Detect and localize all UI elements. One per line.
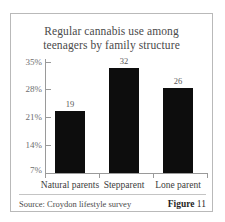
x-axis-label-lone-parent: Lone parent bbox=[144, 180, 212, 191]
bar-value-stepparent: 32 bbox=[109, 57, 139, 66]
bar-lone-parent bbox=[163, 88, 193, 173]
y-axis-tick bbox=[46, 145, 51, 146]
x-axis-tick bbox=[45, 174, 46, 178]
figure-caption: Figure 11 bbox=[168, 198, 206, 210]
y-axis-tick-label: 21% bbox=[12, 113, 42, 122]
y-axis-tick bbox=[46, 117, 51, 118]
y-axis-tick bbox=[46, 173, 51, 174]
source-note: Source: Croydon lifestyle survey bbox=[19, 198, 131, 210]
bar-natural-parents bbox=[55, 111, 85, 173]
bar-value-natural-parents: 19 bbox=[55, 100, 85, 109]
y-axis-tick-label: 14% bbox=[12, 141, 42, 150]
y-axis-tick-label: 28% bbox=[12, 85, 42, 94]
plot-area: 35% 28% 21% 14% 7% 19 Natural parents 32… bbox=[11, 14, 214, 213]
bar-stepparent bbox=[109, 68, 139, 173]
bar-value-lone-parent: 26 bbox=[163, 77, 193, 86]
figure-caption-number: 11 bbox=[197, 199, 206, 209]
y-axis-tick-label: 7% bbox=[12, 166, 42, 175]
x-axis-tick bbox=[99, 174, 100, 178]
y-axis-tick bbox=[46, 62, 51, 63]
figure-container: Regular cannabis use among teenagers by … bbox=[10, 13, 213, 212]
y-axis-tick bbox=[46, 89, 51, 90]
y-axis-tick-label: 35% bbox=[12, 58, 42, 67]
x-axis-tick bbox=[153, 174, 154, 178]
footer-divider bbox=[19, 194, 206, 195]
figure-caption-word: Figure bbox=[168, 199, 195, 209]
x-axis-line bbox=[45, 173, 208, 174]
x-axis-tick bbox=[207, 174, 208, 178]
figure-footer: Source: Croydon lifestyle survey Figure … bbox=[19, 198, 206, 212]
